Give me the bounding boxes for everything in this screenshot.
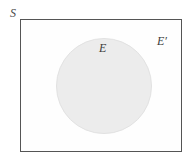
sample-space-label: S	[10, 7, 16, 19]
complement-label: E′	[157, 35, 167, 47]
venn-diagram-figure: S E E′	[0, 0, 194, 160]
event-label: E	[99, 42, 106, 54]
